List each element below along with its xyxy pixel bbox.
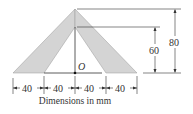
arrow-left-icon [44,87,48,90]
arrow-right-icon [71,87,75,90]
arrow-left-icon [106,87,110,90]
arrow-left-icon [13,87,17,90]
arrow-down-icon [154,69,157,73]
segment-label: 40 [22,83,32,94]
segment-label: 40 [53,83,63,94]
arrow-right-icon [40,87,44,90]
arrow-right-icon [102,87,106,90]
arrow-left-icon [75,87,79,90]
arrow-down-icon [174,69,177,73]
arrow-up-icon [174,9,177,13]
arrow-right-icon [133,87,137,90]
dim-60-label: 60 [149,45,159,56]
caption: Dimensions in mm [0,96,150,106]
arrow-up-icon [154,27,157,31]
segment-label: 40 [115,83,125,94]
origin-label: O [78,61,85,72]
segment-label: 40 [84,83,94,94]
left-leg-shape [13,9,75,73]
dim-80-label: 80 [169,37,179,48]
origin-point [74,72,77,75]
